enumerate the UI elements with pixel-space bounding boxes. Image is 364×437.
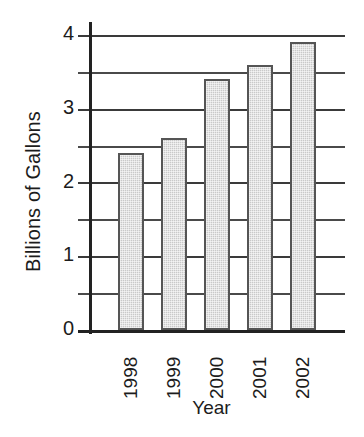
y-tick-label-3: 3	[44, 96, 74, 119]
y-tick-label-0: 0	[44, 317, 74, 340]
x-tick-text-1999: 1999	[163, 337, 185, 399]
y-tick-label-4: 4	[44, 22, 74, 45]
x-tick-text-2000: 2000	[206, 337, 228, 399]
x-axis-title: Year	[78, 397, 345, 419]
x-tick-label-2001: 2001	[247, 336, 273, 398]
gridline-4-0	[78, 35, 345, 37]
x-tick-label-2000: 2000	[204, 336, 230, 398]
y-axis-title: Billions of Gallons	[22, 67, 45, 317]
y-axis-line	[89, 22, 92, 334]
x-axis-line	[78, 330, 345, 333]
y-tick-label-1: 1	[44, 243, 74, 266]
bar-chart: Billions of Gallons 4 3 2 1 0 1998 1999 …	[0, 0, 364, 437]
bar-2002	[290, 42, 316, 330]
y-tick-label-2: 2	[44, 170, 74, 193]
bar-1999	[161, 138, 187, 330]
bar-2000	[204, 79, 230, 330]
x-tick-text-2002: 2002	[292, 337, 314, 399]
bar-2001	[247, 65, 273, 330]
x-tick-label-1999: 1999	[161, 336, 187, 398]
x-tick-label-2002: 2002	[290, 336, 316, 398]
x-tick-text-1998: 1998	[120, 337, 142, 399]
x-tick-label-1998: 1998	[118, 336, 144, 398]
bar-1998	[118, 153, 144, 330]
x-tick-text-2001: 2001	[249, 337, 271, 399]
